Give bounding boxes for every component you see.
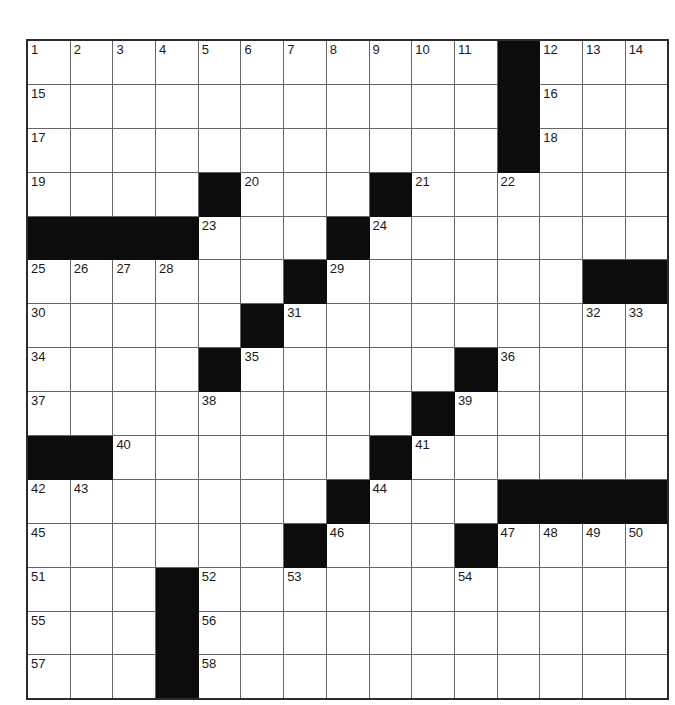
crossword-cell[interactable] <box>70 611 113 655</box>
crossword-cell[interactable] <box>326 655 369 699</box>
crossword-cell[interactable] <box>540 216 583 260</box>
crossword-cell[interactable] <box>284 172 327 216</box>
crossword-cell[interactable]: 31 <box>284 304 327 348</box>
crossword-cell[interactable] <box>113 84 156 128</box>
crossword-cell[interactable] <box>156 392 199 436</box>
crossword-cell[interactable] <box>454 216 497 260</box>
crossword-cell[interactable] <box>326 172 369 216</box>
crossword-cell[interactable] <box>156 479 199 523</box>
crossword-cell[interactable] <box>412 84 455 128</box>
crossword-cell[interactable] <box>241 392 284 436</box>
crossword-cell[interactable] <box>540 392 583 436</box>
crossword-cell[interactable] <box>113 567 156 611</box>
crossword-cell[interactable] <box>497 304 540 348</box>
crossword-cell[interactable]: 28 <box>156 260 199 304</box>
crossword-cell[interactable] <box>284 479 327 523</box>
crossword-cell[interactable] <box>198 523 241 567</box>
crossword-cell[interactable]: 9 <box>369 40 412 84</box>
crossword-cell[interactable]: 54 <box>454 567 497 611</box>
crossword-cell[interactable]: 46 <box>326 523 369 567</box>
crossword-cell[interactable]: 35 <box>241 348 284 392</box>
crossword-cell[interactable] <box>540 567 583 611</box>
crossword-cell[interactable]: 22 <box>497 172 540 216</box>
crossword-cell[interactable]: 50 <box>625 523 668 567</box>
crossword-cell[interactable] <box>369 611 412 655</box>
crossword-cell[interactable] <box>369 260 412 304</box>
crossword-cell[interactable] <box>497 216 540 260</box>
crossword-cell[interactable] <box>156 436 199 480</box>
crossword-cell[interactable] <box>497 567 540 611</box>
crossword-cell[interactable] <box>454 304 497 348</box>
crossword-cell[interactable] <box>113 655 156 699</box>
crossword-cell[interactable] <box>284 84 327 128</box>
crossword-cell[interactable]: 18 <box>540 128 583 172</box>
crossword-cell[interactable] <box>70 128 113 172</box>
crossword-cell[interactable] <box>198 304 241 348</box>
crossword-cell[interactable] <box>412 128 455 172</box>
crossword-cell[interactable] <box>369 567 412 611</box>
crossword-cell[interactable] <box>582 128 625 172</box>
crossword-cell[interactable] <box>284 655 327 699</box>
crossword-cell[interactable] <box>198 84 241 128</box>
crossword-cell[interactable]: 37 <box>27 392 70 436</box>
crossword-cell[interactable] <box>241 611 284 655</box>
crossword-cell[interactable] <box>198 479 241 523</box>
crossword-cell[interactable] <box>625 655 668 699</box>
crossword-cell[interactable]: 55 <box>27 611 70 655</box>
crossword-cell[interactable] <box>582 392 625 436</box>
crossword-cell[interactable] <box>582 611 625 655</box>
crossword-cell[interactable] <box>625 567 668 611</box>
crossword-cell[interactable]: 48 <box>540 523 583 567</box>
crossword-cell[interactable] <box>326 128 369 172</box>
crossword-cell[interactable]: 7 <box>284 40 327 84</box>
crossword-cell[interactable]: 3 <box>113 40 156 84</box>
crossword-cell[interactable] <box>582 216 625 260</box>
crossword-cell[interactable] <box>412 611 455 655</box>
crossword-cell[interactable]: 53 <box>284 567 327 611</box>
crossword-cell[interactable] <box>113 128 156 172</box>
crossword-cell[interactable] <box>454 172 497 216</box>
crossword-cell[interactable] <box>625 436 668 480</box>
crossword-cell[interactable] <box>156 304 199 348</box>
crossword-cell[interactable] <box>113 479 156 523</box>
crossword-cell[interactable]: 40 <box>113 436 156 480</box>
crossword-grid[interactable]: 1234567891011121314151617181920212223242… <box>26 39 669 700</box>
crossword-cell[interactable]: 15 <box>27 84 70 128</box>
crossword-cell[interactable] <box>284 392 327 436</box>
crossword-cell[interactable] <box>497 655 540 699</box>
crossword-cell[interactable]: 14 <box>625 40 668 84</box>
crossword-cell[interactable] <box>326 611 369 655</box>
crossword-cell[interactable] <box>326 84 369 128</box>
crossword-cell[interactable] <box>369 304 412 348</box>
crossword-cell[interactable] <box>497 611 540 655</box>
crossword-cell[interactable] <box>582 567 625 611</box>
crossword-cell[interactable] <box>540 611 583 655</box>
crossword-cell[interactable]: 2 <box>70 40 113 84</box>
crossword-cell[interactable] <box>582 84 625 128</box>
crossword-cell[interactable] <box>625 172 668 216</box>
crossword-cell[interactable] <box>326 348 369 392</box>
crossword-cell[interactable]: 23 <box>198 216 241 260</box>
crossword-cell[interactable]: 44 <box>369 479 412 523</box>
crossword-cell[interactable]: 38 <box>198 392 241 436</box>
crossword-cell[interactable] <box>70 304 113 348</box>
crossword-cell[interactable] <box>412 523 455 567</box>
crossword-cell[interactable]: 26 <box>70 260 113 304</box>
crossword-cell[interactable] <box>326 392 369 436</box>
crossword-cell[interactable]: 47 <box>497 523 540 567</box>
crossword-cell[interactable] <box>241 655 284 699</box>
crossword-cell[interactable] <box>156 348 199 392</box>
crossword-cell[interactable]: 21 <box>412 172 455 216</box>
crossword-cell[interactable] <box>70 655 113 699</box>
crossword-cell[interactable] <box>369 655 412 699</box>
crossword-cell[interactable] <box>326 304 369 348</box>
crossword-cell[interactable] <box>497 436 540 480</box>
crossword-cell[interactable] <box>326 436 369 480</box>
crossword-cell[interactable] <box>241 128 284 172</box>
crossword-cell[interactable]: 27 <box>113 260 156 304</box>
crossword-cell[interactable] <box>241 436 284 480</box>
crossword-cell[interactable] <box>198 260 241 304</box>
crossword-cell[interactable] <box>241 479 284 523</box>
crossword-cell[interactable]: 20 <box>241 172 284 216</box>
crossword-cell[interactable]: 17 <box>27 128 70 172</box>
